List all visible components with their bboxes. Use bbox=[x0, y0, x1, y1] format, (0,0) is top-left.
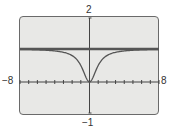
xmin-label: −8 bbox=[2, 76, 13, 86]
ymax-label: 2 bbox=[86, 5, 92, 15]
axes bbox=[20, 18, 159, 113]
ymin-label: −1 bbox=[82, 118, 93, 128]
xmax-label: 8 bbox=[161, 76, 167, 86]
graph-plot bbox=[0, 0, 170, 130]
